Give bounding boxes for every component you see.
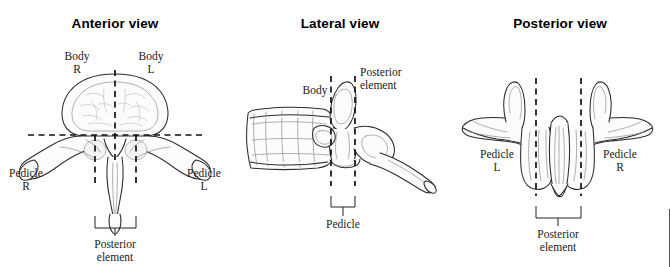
posterior-label-pedicle-l: Pedicle L — [470, 148, 524, 173]
lateral-label-pedicle: Pedicle — [313, 218, 373, 231]
lateral-pedicle-bracket — [331, 196, 355, 207]
lateral-label-body: Body — [292, 84, 338, 97]
posterior-vertebra-illustration — [450, 0, 670, 267]
anterior-label-body-r: Body R — [52, 50, 102, 75]
posterior-label-pedicle-r: Pedicle R — [593, 148, 647, 173]
anterior-label-posterior-element: Posterior element — [75, 238, 155, 263]
anterior-vertebra-illustration — [0, 0, 230, 267]
panel-posterior-view: Posterior view — [450, 0, 670, 267]
panel-lateral-view: Lateral view — [230, 0, 450, 267]
posterior-label-posterior-element: Posterior element — [518, 228, 598, 253]
vertebra-views-figure: Anterior view — [0, 0, 670, 267]
posterior-posterior-element-bracket — [536, 206, 581, 218]
anterior-label-pedicle-l: Pedicle L — [180, 167, 228, 192]
panel-anterior-view: Anterior view — [0, 0, 230, 267]
anterior-label-pedicle-r: Pedicle R — [2, 167, 50, 192]
lateral-label-posterior-element: Posterior element — [360, 66, 430, 91]
anterior-label-body-l: Body L — [126, 50, 176, 75]
